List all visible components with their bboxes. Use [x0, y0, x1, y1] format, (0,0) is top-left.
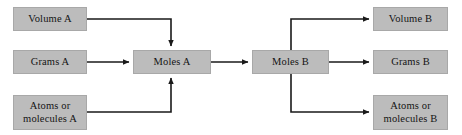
- node-volume-a[interactable]: Volume A: [13, 7, 87, 31]
- mole-conversion-flowchart: Volume A Grams A Atoms or molecules A Mo…: [0, 0, 462, 135]
- edge-volume-a-to-moles-a: [87, 19, 171, 46]
- node-moles-b[interactable]: Moles B: [252, 50, 329, 74]
- edge-atoms-a-to-moles-a: [87, 78, 171, 112]
- node-grams-b[interactable]: Grams B: [373, 50, 448, 74]
- node-moles-a[interactable]: Moles A: [133, 50, 211, 74]
- node-grams-a[interactable]: Grams A: [13, 50, 87, 74]
- node-atoms-or-molecules-a[interactable]: Atoms or molecules A: [13, 95, 87, 130]
- node-volume-b[interactable]: Volume B: [373, 7, 448, 31]
- node-atoms-or-molecules-b[interactable]: Atoms or molecules B: [373, 95, 448, 130]
- edge-moles-b-to-volume-b: [291, 19, 369, 50]
- edge-moles-b-to-atoms-b: [291, 74, 369, 112]
